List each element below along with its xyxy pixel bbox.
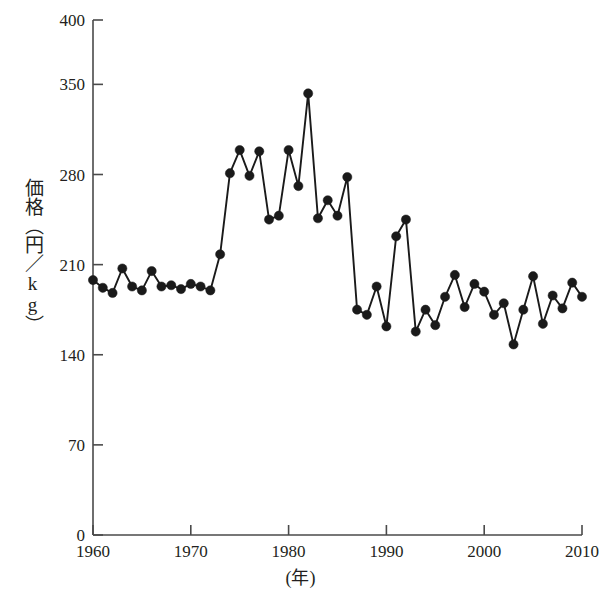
data-point	[264, 215, 273, 224]
y-axis-tick-labels: 070140210280350400	[60, 11, 86, 545]
data-point	[460, 303, 469, 312]
data-point	[421, 305, 430, 314]
data-point	[304, 89, 313, 98]
x-tick-label-1980: 1980	[272, 542, 306, 561]
x-tick-label-2000: 2000	[467, 542, 501, 561]
y-tick-label-280: 280	[60, 166, 86, 185]
data-point	[568, 278, 577, 287]
data-point	[480, 287, 489, 296]
data-point	[284, 145, 293, 154]
data-point	[216, 250, 225, 259]
data-point	[392, 232, 401, 241]
x-tick-label-2010: 2010	[565, 542, 599, 561]
data-point	[470, 279, 479, 288]
data-point	[440, 292, 449, 301]
data-point	[206, 286, 215, 295]
data-point	[509, 340, 518, 349]
data-point	[372, 282, 381, 291]
data-point	[128, 282, 137, 291]
data-point	[489, 310, 498, 319]
data-point	[352, 305, 361, 314]
x-tick-label-1970: 1970	[174, 542, 208, 561]
data-point	[255, 147, 264, 156]
line-chart-plot: 070140210280350400 196019701980199020002…	[0, 0, 601, 601]
data-point	[538, 319, 547, 328]
data-point	[499, 299, 508, 308]
data-point	[450, 270, 459, 279]
data-point	[176, 284, 185, 293]
data-point	[529, 272, 538, 281]
data-point	[558, 304, 567, 313]
data-point	[137, 286, 146, 295]
data-point	[118, 264, 127, 273]
x-tick-label-1990: 1990	[369, 542, 403, 561]
y-tick-label-70: 70	[68, 436, 85, 455]
x-tick-label-1960: 1960	[76, 542, 110, 561]
data-point	[519, 305, 528, 314]
data-point	[274, 211, 283, 220]
data-point	[333, 211, 342, 220]
data-point	[88, 275, 97, 284]
data-point	[313, 214, 322, 223]
y-axis-title: 価格（円／kg）	[6, 178, 42, 334]
data-point	[235, 145, 244, 154]
x-axis-tick-labels: 196019701980199020002010	[76, 542, 599, 561]
data-point	[323, 196, 332, 205]
data-point	[362, 310, 371, 319]
data-point	[196, 282, 205, 291]
y-tick-label-400: 400	[60, 11, 86, 30]
data-point	[548, 291, 557, 300]
data-point	[157, 282, 166, 291]
data-point	[225, 169, 234, 178]
data-point	[431, 321, 440, 330]
data-point	[577, 292, 586, 301]
data-point	[401, 215, 410, 224]
y-tick-label-350: 350	[60, 75, 86, 94]
data-point	[108, 288, 117, 297]
axis-lines	[93, 20, 582, 535]
data-point	[186, 279, 195, 288]
data-series-markers	[88, 89, 586, 349]
x-axis-title: (年)	[0, 563, 601, 589]
data-point	[245, 171, 254, 180]
y-tick-label-140: 140	[60, 346, 86, 365]
y-tick-label-210: 210	[60, 256, 86, 275]
data-point	[382, 322, 391, 331]
data-point	[147, 266, 156, 275]
x-axis-ticks	[93, 525, 582, 535]
data-point	[294, 181, 303, 190]
chart-container: 070140210280350400 196019701980199020002…	[0, 0, 601, 601]
data-point	[411, 327, 420, 336]
data-point	[98, 283, 107, 292]
data-point	[343, 172, 352, 181]
data-point	[167, 281, 176, 290]
